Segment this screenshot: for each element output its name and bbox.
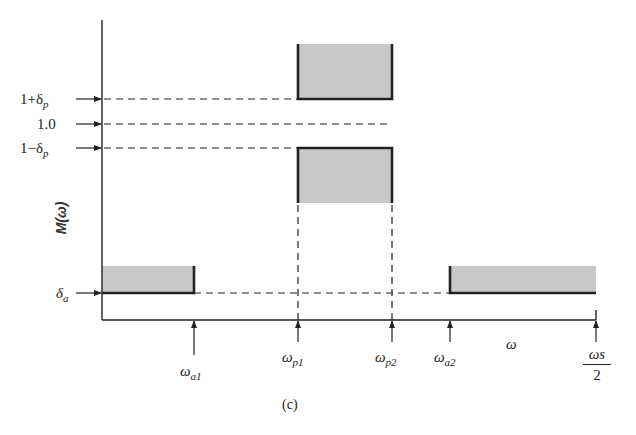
label-main: 1−δ — [20, 140, 43, 156]
label-stop-tolerance: δa — [56, 286, 68, 301]
label-main: ω — [282, 349, 293, 365]
label-main: ω — [375, 349, 386, 365]
label-lower-tolerance: 1−δp — [20, 141, 49, 156]
label-sub: p1 — [293, 356, 304, 368]
label-unity: 1.0 — [37, 117, 56, 132]
label-sub: p — [43, 98, 49, 110]
frac-denominator: 2 — [583, 365, 611, 384]
passband-upper-region — [298, 44, 392, 99]
y-level-arrows — [76, 99, 101, 293]
label-main: ω — [434, 349, 445, 365]
label-main: 1.0 — [37, 116, 56, 132]
label-sub: a — [63, 292, 69, 304]
label-main: δ — [56, 285, 63, 301]
label-sub: p — [43, 147, 49, 159]
label-wa1: ωa1 — [180, 364, 202, 379]
y-axis-label: M(ω) — [53, 202, 69, 235]
label-wa2: ωa2 — [434, 350, 456, 365]
tolerance-regions — [102, 44, 596, 293]
label-main: 1+δ — [20, 91, 43, 107]
label-sub: a1 — [191, 370, 202, 382]
figure-caption: (c) — [282, 398, 298, 412]
label-wp1: ωp1 — [282, 350, 304, 365]
tolerance-diagram — [0, 0, 636, 435]
label-upper-tolerance: 1+δp — [20, 92, 49, 107]
label-sub: a2 — [445, 356, 456, 368]
label-main: ω — [180, 363, 191, 379]
label-wp2: ωp2 — [375, 350, 397, 365]
x-axis-label: ω — [506, 337, 517, 352]
frac-numerator: ωs — [583, 346, 611, 365]
label-sub: p2 — [386, 356, 397, 368]
stopband2-region — [450, 266, 596, 293]
label-ws-half: ωs 2 — [583, 346, 611, 384]
passband-lower-region — [298, 148, 392, 203]
stopband1-region — [102, 266, 194, 293]
